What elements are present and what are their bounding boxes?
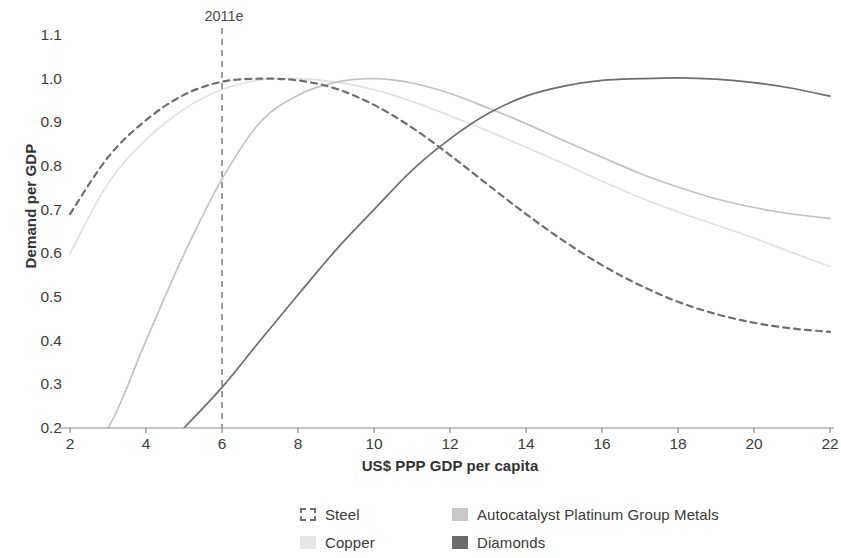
x-tick-label: 2 <box>50 436 90 452</box>
legend-item-label: Steel <box>325 506 360 523</box>
legend-swatch-icon <box>452 508 468 521</box>
x-tick-label: 8 <box>278 436 318 452</box>
series-line-copper <box>70 78 830 266</box>
marker-label-2011e: 2011e <box>164 8 284 24</box>
legend-swatch-icon <box>452 536 468 549</box>
x-tick-label: 16 <box>582 436 622 452</box>
x-tick-label: 18 <box>658 436 698 452</box>
legend-item-label: Copper <box>325 534 375 551</box>
legend-swatch-icon <box>300 536 316 549</box>
series-line-autocatalyst-platinum-group-metals <box>70 79 830 463</box>
demand-per-gdp-chart: Demand per GDP 1.11.00.90.80.70.60.50.40… <box>0 0 841 558</box>
x-tick-label: 12 <box>430 436 470 452</box>
legend-item[interactable]: Steel <box>300 506 452 523</box>
chart-legend: SteelAutocatalyst Platinum Group MetalsC… <box>300 500 770 556</box>
x-axis-tick-labels: 246810121416182022 <box>0 436 841 458</box>
x-tick-label: 14 <box>506 436 546 452</box>
x-tick-label: 4 <box>126 436 166 452</box>
legend-item-label: Autocatalyst Platinum Group Metals <box>477 506 719 523</box>
x-tick-label: 6 <box>202 436 242 452</box>
legend-swatch-icon <box>300 508 316 521</box>
x-tick-label: 10 <box>354 436 394 452</box>
x-axis-title: US$ PPP GDP per capita <box>70 457 830 474</box>
x-tick-label: 22 <box>810 436 841 452</box>
legend-item[interactable]: Autocatalyst Platinum Group Metals <box>452 506 770 523</box>
plot-area <box>0 0 841 558</box>
legend-item[interactable]: Diamonds <box>452 534 770 551</box>
x-tick-label: 20 <box>734 436 774 452</box>
legend-item-label: Diamonds <box>477 534 545 551</box>
legend-item[interactable]: Copper <box>300 534 452 551</box>
